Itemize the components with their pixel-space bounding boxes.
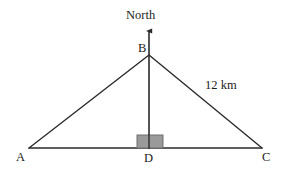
north-label: North — [126, 9, 155, 22]
vertex-label-a: A — [16, 151, 25, 164]
diagram-canvas — [0, 0, 286, 170]
right-angle-marker — [137, 135, 163, 148]
side-measure-label: 12 km — [205, 79, 237, 92]
vertex-label-b: B — [138, 42, 146, 55]
vertex-label-c: C — [262, 151, 270, 164]
segment-ab — [29, 55, 149, 148]
geometry-diagram: North B 12 km A D C — [0, 0, 286, 170]
vertex-label-d: D — [144, 152, 153, 165]
segment-bc — [149, 55, 262, 148]
